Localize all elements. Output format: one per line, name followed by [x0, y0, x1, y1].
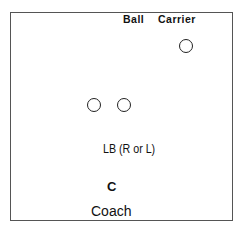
diagram-frame [10, 12, 233, 221]
coach-marker: C [107, 179, 116, 194]
ball-carrier-circle-icon [179, 39, 193, 53]
carrier-label: Carrier [158, 13, 196, 25]
player-left-circle-icon [87, 98, 101, 112]
player-right-circle-icon [117, 98, 131, 112]
ball-label: Ball [123, 13, 144, 25]
linebacker-label: LB (R or L) [103, 141, 155, 156]
coach-label: Coach [91, 203, 131, 219]
